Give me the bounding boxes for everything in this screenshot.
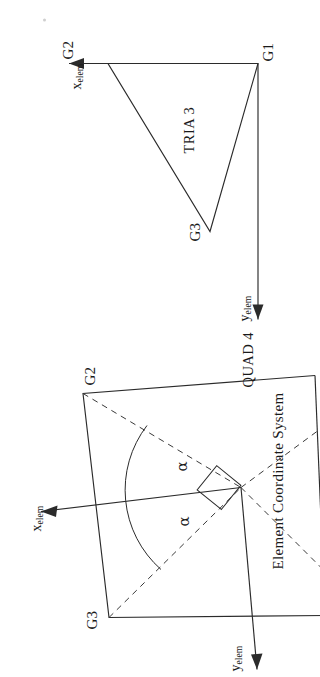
- quad4-y-axis-label: yelem: [229, 645, 245, 671]
- tria3-node-label-g1: G1: [261, 42, 270, 61]
- quad4-diagonals: [83, 393, 270, 617]
- figure-page: G3 G2 xelem yelem α α QUAD 4: [25, 0, 270, 677]
- figure-tria3: G1 G2 G3 xelem yelem TRIA 3: [25, 0, 270, 339]
- tria3-node-label-g3: G3: [188, 222, 203, 241]
- tria3-title: TRIA 3: [182, 106, 197, 153]
- figure-quad4: G3 G2 xelem yelem α α QUAD 4: [25, 339, 270, 677]
- tria3-x-axis-label: xelem: [70, 63, 86, 89]
- quad4-angle-label-alpha-lower: α: [175, 461, 190, 471]
- quad4-angle-label-alpha-upper: α: [177, 516, 192, 526]
- quad4-node-label-g3: G3: [85, 610, 100, 629]
- quad4-title: QUAD 4: [241, 332, 256, 387]
- tria3-y-axis: [253, 63, 264, 319]
- quad4-node-label-g2: G2: [83, 366, 98, 385]
- quad4-right-angle-marker: [195, 463, 243, 511]
- quad4-y-axis: [241, 487, 263, 669]
- quad4-x-axis-label: xelem: [30, 505, 46, 531]
- tria3-node-label-g2: G2: [61, 40, 76, 59]
- quad4-angle-arc: [125, 425, 161, 569]
- tria3-y-axis-label: yelem: [238, 295, 254, 321]
- quad4-drawing: [25, 339, 270, 677]
- tria3-x-axis: [69, 58, 258, 69]
